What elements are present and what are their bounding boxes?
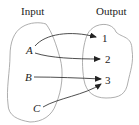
arrow-a-to-2	[35, 53, 100, 59]
output-label-1: 1	[102, 32, 108, 44]
input-label-b: B	[25, 71, 32, 83]
output-label-3: 3	[105, 74, 111, 86]
input-label-a: A	[26, 44, 33, 56]
input-header: Input	[21, 5, 44, 17]
arrow-c-to-3	[43, 84, 101, 107]
mapping-diagram	[0, 0, 139, 125]
output-label-2: 2	[105, 53, 111, 65]
input-label-c: C	[33, 102, 40, 114]
arrow-b-to-3	[34, 77, 101, 79]
output-header: Output	[96, 5, 127, 17]
